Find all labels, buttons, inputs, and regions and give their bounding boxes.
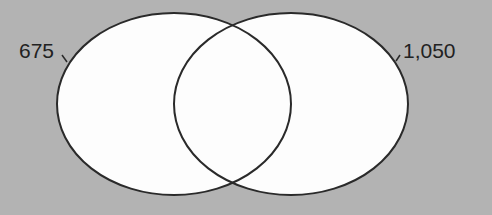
venn-diagram [0, 0, 492, 215]
left-leader-line [62, 55, 67, 62]
right-leader-line [396, 55, 400, 61]
left-set-label: 675 [19, 40, 54, 61]
right-set-label: 1,050 [403, 40, 456, 61]
